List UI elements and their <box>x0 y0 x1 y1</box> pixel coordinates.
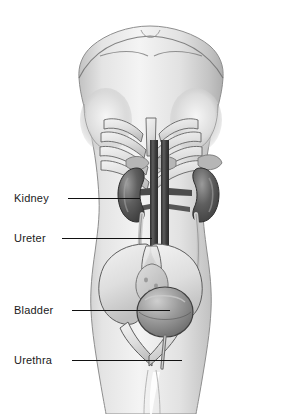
leader-line-urethra <box>72 360 182 361</box>
label-urethra-text: Urethra <box>14 354 52 366</box>
label-bladder-text: Bladder <box>14 304 53 316</box>
anatomy-illustration <box>0 0 301 414</box>
leader-line-kidney <box>68 198 140 199</box>
leader-line-ureter <box>62 238 152 239</box>
bladder <box>137 287 193 337</box>
label-kidney-text: Kidney <box>14 192 49 204</box>
leader-line-bladder <box>72 310 170 311</box>
label-ureter-text: Ureter <box>14 232 46 244</box>
